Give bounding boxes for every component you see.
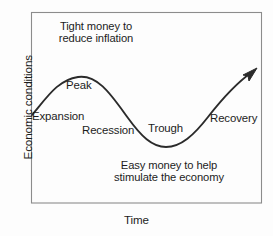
phase-label-recovery: Recovery xyxy=(210,112,257,124)
x-axis-label: Time xyxy=(0,214,273,227)
business-cycle-figure: Tight money to reduce inflation Easy mon… xyxy=(0,0,273,236)
y-axis-label: Economic conditions xyxy=(22,22,35,192)
annotation-tight-money: Tight money to reduce inflation xyxy=(44,20,148,44)
phase-label-recession: Recession xyxy=(82,124,134,136)
annotation-easy-money: Easy money to help stimulate the economy xyxy=(105,159,233,183)
phase-label-peak: Peak xyxy=(66,79,92,91)
phase-label-expansion: Expansion xyxy=(32,110,84,122)
phase-label-trough: Trough xyxy=(148,122,183,134)
